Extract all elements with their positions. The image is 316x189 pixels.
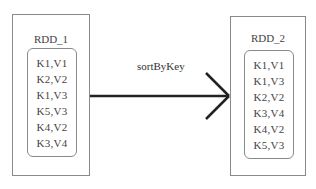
arrow-icon xyxy=(0,0,316,189)
transformation-label: sortByKey xyxy=(137,60,185,72)
